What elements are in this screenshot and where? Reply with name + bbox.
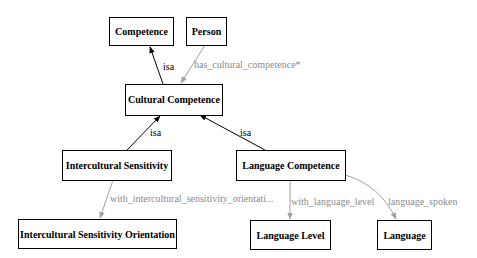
ontology-diagram: isa has_cultural_competence* isa isa wit…	[0, 0, 477, 258]
edge-label-isa: isa	[240, 127, 252, 138]
edge-label-language-spoken: language_spoken	[388, 196, 457, 207]
node-label: Language Competence	[242, 160, 340, 171]
node-label: Competence	[115, 26, 168, 37]
node-competence[interactable]: Competence	[110, 18, 174, 46]
edge-language-competence-isa-cultural-competence: isa	[200, 115, 265, 150]
edge-label-with-language-level: with_language_level	[291, 196, 375, 207]
node-cultural-competence[interactable]: Cultural Competence	[126, 85, 223, 116]
node-label: Language Level	[256, 230, 324, 241]
edge-intercultural-sensitivity-with-orientation: with_intercultural_sensitivity_orientati…	[100, 180, 274, 218]
node-language-competence[interactable]: Language Competence	[237, 151, 346, 181]
edge-label-isa: isa	[163, 61, 175, 72]
node-label: Language	[383, 230, 426, 241]
edge-language-competence-with-language-level: with_language_level	[290, 180, 375, 219]
edge-label-isa: isa	[150, 127, 162, 138]
node-person[interactable]: Person	[187, 18, 227, 46]
node-label: Cultural Competence	[128, 94, 220, 105]
edge-label-has-cultural-competence: has_cultural_competence*	[194, 59, 301, 70]
edge-person-has-cultural-competence: has_cultural_competence*	[181, 45, 301, 83]
node-language-level[interactable]: Language Level	[251, 221, 331, 250]
edge-intercultural-sensitivity-isa-cultural-competence: isa	[127, 116, 162, 150]
node-label: Intercultural Sensitivity Orientation	[20, 229, 175, 240]
node-label: Person	[192, 26, 222, 37]
node-intercultural-sensitivity-orientation[interactable]: Intercultural Sensitivity Orientation	[19, 220, 177, 249]
edge-label-with-intercultural-sensitivity-orientation: with_intercultural_sensitivity_orientati…	[110, 193, 274, 204]
node-language[interactable]: Language	[378, 221, 432, 250]
edge-cultural-competence-isa-competence: isa	[150, 47, 175, 84]
node-intercultural-sensitivity[interactable]: Intercultural Sensitivity	[63, 151, 172, 181]
node-label: Intercultural Sensitivity	[66, 160, 168, 171]
